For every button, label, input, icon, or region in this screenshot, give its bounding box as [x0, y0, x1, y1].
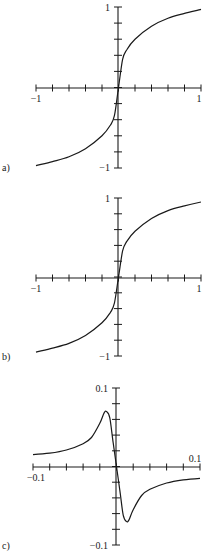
panel-b-label: b) — [2, 351, 10, 363]
panel-a-y-min-label: −1 — [99, 162, 110, 173]
panel-a-x-max-label: 1 — [197, 93, 202, 104]
panel-c-x-max-label: 0.1 — [189, 453, 202, 464]
panel-b-y-max-label: 1 — [105, 193, 110, 204]
panel-a-y-max-label: 1 — [105, 2, 110, 13]
panel-b-x-max-label: 1 — [197, 283, 202, 294]
panel-c-y-max-label: 0.1 — [96, 383, 109, 394]
panel-b-x-min-label: −1 — [31, 283, 42, 294]
panel-b-y-min-label: −1 — [99, 351, 110, 362]
panel-a-label: a) — [2, 162, 10, 174]
label-layer: 1 −1 −1 1 a) 1 −1 −1 1 b) 0.1 −0.1 −0.1 … — [0, 0, 207, 552]
panel-c-x-min-label: −0.1 — [27, 472, 45, 483]
panel-a-x-min-label: −1 — [31, 93, 42, 104]
panel-c-label: c) — [2, 540, 10, 552]
panel-c-y-min-label: −0.1 — [90, 540, 108, 551]
